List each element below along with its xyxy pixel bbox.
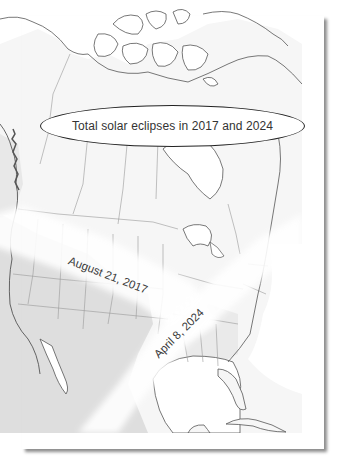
map-title-ellipse: Total solar eclipses in 2017 and 2024 (40, 105, 305, 147)
map-title: Total solar eclipses in 2017 and 2024 (72, 119, 273, 133)
map-page (22, 16, 324, 449)
